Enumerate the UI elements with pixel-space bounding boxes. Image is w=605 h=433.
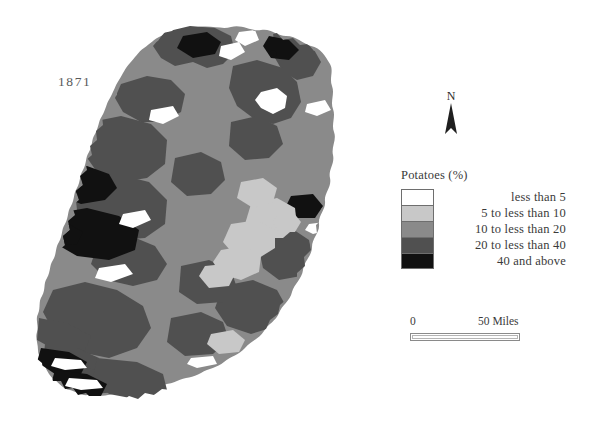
- legend-swatch-class-2: [401, 205, 434, 221]
- legend-swatch-class-4: [401, 237, 434, 253]
- legend-swatch-class-1: [401, 189, 434, 205]
- map-landmass: [33, 26, 335, 400]
- legend-label-class-3: 10 to less than 20: [434, 222, 574, 237]
- legend-label-class-2: 5 to less than 10: [434, 206, 574, 221]
- scale-bar-max-label: 50 Miles: [478, 315, 519, 327]
- legend-class-list: less than 5 5 to less than 10 10 to less…: [401, 189, 581, 269]
- map-figure: 1871: [0, 0, 605, 433]
- north-arrow-letter: N: [436, 90, 466, 103]
- scale-bar-zero-label: 0: [410, 315, 416, 327]
- ireland-choropleth-map: [25, 18, 370, 423]
- scale-bar: 0 50 Miles: [410, 315, 540, 341]
- north-arrow-needle: [443, 103, 459, 137]
- legend-swatch-class-3: [401, 221, 434, 237]
- legend-swatch-class-5: [401, 253, 434, 269]
- legend-label-class-5: 40 and above: [434, 254, 574, 269]
- legend-item: 10 to less than 20: [401, 221, 581, 237]
- legend: Potatoes (%) less than 5 5 to less than …: [401, 168, 581, 269]
- scale-bar-graphic-inner: [412, 335, 518, 339]
- north-arrow: N: [436, 90, 466, 138]
- legend-item: 20 to less than 40: [401, 237, 581, 253]
- legend-item: 5 to less than 10: [401, 205, 581, 221]
- scale-bar-labels: 0 50 Miles: [410, 315, 540, 331]
- scale-bar-graphic: [410, 333, 520, 341]
- legend-title: Potatoes (%): [401, 168, 581, 183]
- legend-label-class-4: 20 to less than 40: [434, 238, 574, 253]
- legend-item: less than 5: [401, 189, 581, 205]
- legend-item: 40 and above: [401, 253, 581, 269]
- map-svg: [25, 18, 370, 423]
- legend-label-class-1: less than 5: [434, 190, 574, 205]
